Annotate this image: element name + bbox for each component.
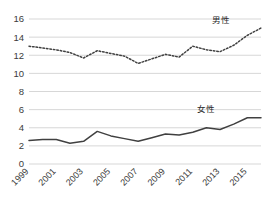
series-group	[29, 28, 261, 143]
series-annotations: 男性女性	[197, 15, 230, 114]
x-tick-2015: 2015	[228, 166, 249, 187]
y-tick-4: 4	[19, 122, 24, 133]
y-tick-8: 8	[19, 86, 24, 97]
chart-canvas: 0246810121416199920012003200520072009201…	[0, 0, 273, 204]
line-chart: 0246810121416199920012003200520072009201…	[0, 0, 273, 204]
x-tick-2001: 2001	[36, 166, 57, 187]
series-line-2	[29, 118, 261, 143]
y-tick-10: 10	[13, 68, 24, 79]
x-tick-2003: 2003	[64, 166, 85, 187]
y-tick-14: 14	[13, 32, 24, 43]
female-series-label: 女性	[197, 104, 215, 114]
male-series-label: 男性	[212, 15, 230, 25]
y-tick-12: 12	[13, 50, 24, 61]
x-tick-2005: 2005	[91, 166, 112, 187]
x-tick-2011: 2011	[173, 166, 194, 187]
y-tick-16: 16	[13, 13, 24, 24]
x-tick-2009: 2009	[146, 166, 167, 187]
y-axis-labels: 0246810121416	[13, 13, 24, 169]
x-tick-1999: 1999	[9, 166, 30, 187]
x-axis-labels: 199920012003200520072009201120132015	[9, 166, 249, 187]
series-line-1	[29, 28, 261, 63]
x-tick-2007: 2007	[118, 166, 139, 187]
y-tick-2: 2	[19, 140, 24, 151]
y-tick-6: 6	[19, 104, 24, 115]
x-tick-2013: 2013	[200, 166, 221, 187]
